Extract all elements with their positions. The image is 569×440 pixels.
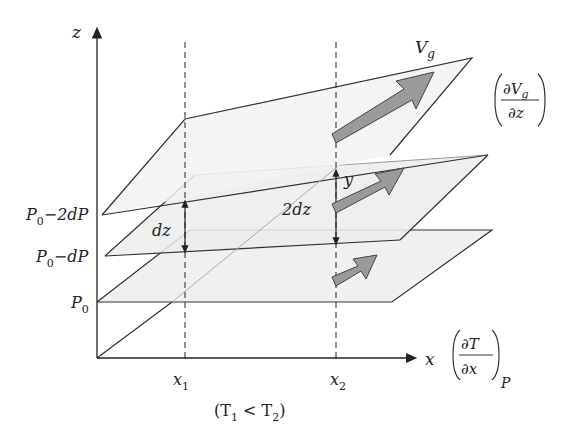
thermal-wind-diagram: z x x1 x2 y P0−2dP P0−dP P0 dz 2dz Vg ∂V… — [0, 0, 569, 440]
plane-label-p0-dp: P0−dP — [35, 247, 88, 270]
x1-label: x1 — [173, 370, 189, 393]
svg-text:∂T: ∂T — [461, 335, 480, 353]
svg-text:∂z: ∂z — [508, 104, 524, 122]
z-axis-label: z — [71, 22, 82, 42]
plane-label-p0: P0 — [70, 293, 89, 316]
y-label: y — [343, 170, 354, 189]
dz-label: dz — [152, 221, 171, 240]
svg-text:∂x: ∂x — [461, 360, 478, 378]
temperature-caption: (T1 < T2) — [214, 401, 285, 424]
temperature-gradient-fraction: ∂T ∂x P — [453, 330, 511, 391]
x-axis-label: x — [425, 349, 435, 369]
svg-text:P: P — [500, 375, 511, 391]
svg-text:∂Vg: ∂Vg — [503, 80, 529, 101]
x2-label: x2 — [330, 370, 346, 393]
depth-line — [97, 302, 172, 358]
plane-label-p0-2dp: P0−2dP — [25, 205, 89, 228]
shear-fraction: ∂Vg ∂z — [495, 74, 545, 126]
vg-label: Vg — [415, 37, 435, 61]
two-dz-label: 2dz — [281, 200, 311, 219]
